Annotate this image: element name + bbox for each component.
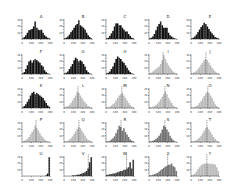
histogram-bar (31, 29, 33, 39)
x-tick-label: 100 (198, 77, 203, 80)
histogram-bar (115, 23, 117, 39)
histogram-bar (25, 69, 27, 74)
histogram-bar (166, 28, 168, 39)
histogram-bar (111, 69, 113, 74)
y-tick-label: 30 (144, 156, 148, 159)
histogram-bar (157, 138, 159, 142)
histogram-plot: 0100200300102030 (16, 84, 56, 116)
histogram-plot: 0100200300102030 (58, 50, 98, 82)
y-tick-label: 30 (186, 54, 190, 57)
y-tick-label: 10 (17, 101, 21, 104)
histogram-panel-r: R0100200300102030 (100, 118, 140, 150)
axis-lines (22, 156, 50, 176)
y-tick-label: 20 (17, 128, 21, 131)
histogram-bar (33, 60, 35, 74)
x-tick-label: 300 (48, 42, 53, 45)
histogram-panel-x: X0100200300102030 (143, 152, 183, 184)
histogram-bar (123, 96, 125, 109)
histogram-bar (165, 167, 167, 176)
x-tick-label: 300 (175, 77, 180, 80)
histogram-bar (129, 36, 131, 39)
histogram-bar (31, 63, 33, 74)
histogram-bar (175, 171, 177, 176)
y-tick-label: 10 (17, 169, 21, 172)
histogram-bar (81, 131, 83, 142)
histogram-bar (208, 29, 210, 39)
histogram-bar (120, 25, 122, 39)
histogram-bar (69, 69, 71, 74)
histogram-bar (109, 72, 111, 75)
histogram-bar (115, 133, 117, 142)
histogram-bar (161, 130, 163, 143)
histogram-bar (38, 131, 40, 142)
histogram-bar (172, 140, 174, 142)
y-tick-label: 20 (101, 128, 105, 131)
x-tick-label: 0 (148, 111, 150, 114)
y-tick-label: 10 (144, 169, 148, 172)
histogram-plot: 0100200300102030 (185, 50, 225, 82)
histogram-bar (210, 32, 212, 40)
histogram-panel-h: H0100200300102030 (100, 50, 140, 82)
y-tick-label: 20 (186, 128, 190, 131)
y-tick-label: 10 (144, 135, 148, 138)
y-tick-label: 20 (186, 94, 190, 97)
histogram-bar (83, 28, 85, 39)
histogram-bar (42, 138, 44, 142)
histogram-bar (42, 98, 44, 108)
x-tick-label: 200 (165, 77, 170, 80)
histogram-plot: 0100200300102030 (100, 84, 140, 116)
histogram-bar (213, 137, 215, 142)
histogram-bar (152, 72, 154, 75)
histogram-bar (205, 164, 207, 177)
y-tick-label: 20 (59, 60, 63, 63)
histogram-bar (115, 59, 117, 74)
y-tick-label: 30 (59, 54, 63, 57)
histogram-bar (83, 64, 85, 74)
x-tick-label: 100 (156, 77, 161, 80)
histogram-panel-c: C0100200300102030 (100, 15, 140, 47)
histogram-plot: 0100200300102030 (58, 84, 98, 116)
histogram-bar (67, 106, 69, 108)
histogram-bar (73, 98, 75, 108)
histogram-bar (205, 128, 207, 142)
x-tick-label: 100 (71, 179, 76, 182)
histogram-bar (33, 92, 35, 108)
x-tick-label: 200 (38, 42, 43, 45)
histogram-bar (123, 63, 125, 74)
y-tick-label: 10 (101, 67, 105, 70)
x-tick-label: 200 (165, 111, 170, 114)
x-tick-label: 200 (38, 179, 43, 182)
histogram-plot: 0100200300102030 (143, 118, 183, 150)
x-tick-label: 200 (165, 42, 170, 45)
y-tick-label: 30 (59, 19, 63, 22)
histogram-plot: 0100200300102030 (16, 50, 56, 82)
histogram-bar (31, 132, 33, 142)
histogram-bar (169, 165, 171, 176)
y-tick-label: 30 (17, 122, 21, 125)
histogram-bar (42, 33, 44, 39)
histogram-bar (155, 30, 157, 39)
x-tick-label: 300 (132, 179, 137, 182)
y-tick-label: 10 (144, 67, 148, 70)
histogram-bar (210, 164, 212, 176)
histogram-bar (70, 138, 72, 142)
histogram-bar (75, 58, 77, 74)
x-tick-label: 0 (190, 77, 192, 80)
y-tick-label: 10 (59, 169, 63, 172)
y-tick-label: 30 (186, 156, 190, 159)
y-tick-label: 30 (17, 54, 21, 57)
x-tick-label: 100 (113, 77, 118, 80)
x-tick-label: 300 (132, 145, 137, 148)
histogram-bar (72, 30, 74, 39)
histogram-panel-q: Q0100200300102030 (58, 118, 98, 150)
histogram-bar (28, 137, 30, 142)
x-tick-label: 300 (132, 111, 137, 114)
histogram-panel-e: E0100200300102030 (185, 15, 225, 47)
y-tick-label: 30 (101, 54, 105, 57)
y-tick-label: 10 (144, 101, 148, 104)
histogram-bar (155, 139, 157, 142)
y-tick-label: 20 (17, 162, 21, 165)
histogram-bar (168, 65, 170, 74)
histogram-panel-t: T0100200300102030 (185, 118, 225, 150)
histogram-panel-s: S0100200300102030 (143, 118, 183, 150)
